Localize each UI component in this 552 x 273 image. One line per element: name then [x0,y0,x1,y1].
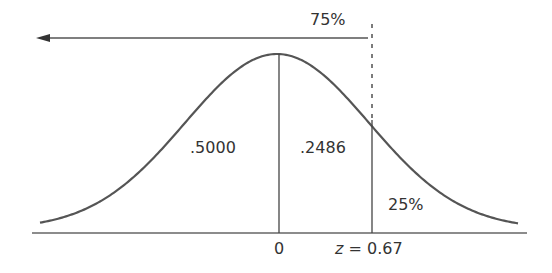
arrowhead-left-icon [36,34,50,42]
label-75-percent: 75% [310,12,346,28]
label-z-value: z = 0.67 [335,241,403,257]
label-area-middle: .2486 [300,140,346,156]
label-tail-25-percent: 25% [388,197,424,213]
normal-curve-diagram [0,0,552,273]
label-area-left: .5000 [190,140,236,156]
label-axis-zero: 0 [274,241,284,257]
z-equals-value: = 0.67 [343,239,402,258]
